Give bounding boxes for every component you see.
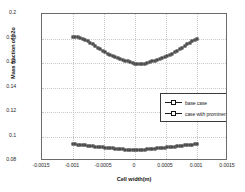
- y-tick-label: 0.08: [6, 157, 16, 162]
- chart-legend: base case case with prominent GDLs: [160, 93, 227, 122]
- legend-item-base-case: base case: [165, 97, 227, 108]
- x-tick-label: 0.0015: [219, 163, 234, 168]
- series-lines: [42, 14, 227, 160]
- x-tick-label: 0: [133, 163, 136, 168]
- x-tick-label: -0.001: [65, 163, 79, 168]
- data-point-marker: [196, 37, 199, 40]
- legend-marker-base-case: [165, 99, 182, 106]
- legend-item-prominent-gdls: case with prominent GDLs: [165, 108, 227, 119]
- legend-label-base-case: base case: [185, 100, 207, 106]
- y-axis-title: Mass fraction of h2o: [10, 3, 16, 103]
- legend-marker-prominent-gdls: [165, 110, 182, 117]
- x-axis-title: Cell width(m): [41, 176, 227, 183]
- chart-figure: base case case with prominent GDLs 0.20.…: [0, 0, 245, 192]
- y-tick-label: 0.12: [6, 108, 16, 113]
- x-tick-label: 0.001: [190, 163, 202, 168]
- plot-area: base case case with prominent GDLs: [41, 13, 227, 160]
- x-tick-label: 0.0005: [157, 163, 172, 168]
- x-tick-label: -0.0015: [33, 163, 50, 168]
- data-point-marker: [196, 142, 199, 145]
- x-tick-label: -0.0005: [95, 163, 112, 168]
- legend-label-prominent-gdls: case with prominent GDLs: [185, 111, 227, 117]
- y-tick-label: 0.1: [9, 133, 16, 138]
